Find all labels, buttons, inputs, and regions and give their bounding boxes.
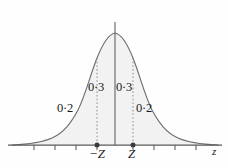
x-tick-label-neg-z: −Z [89, 146, 105, 162]
left-tail-area-label: 0·2 [57, 101, 73, 116]
right-tail-area-label: 0·2 [136, 101, 152, 116]
bell-curve-plot [0, 0, 228, 168]
x-axis-ticks [34, 145, 196, 150]
mid-right-area-label: 0·3 [116, 80, 132, 95]
x-tick-label-pos-z: Z [128, 146, 135, 162]
mid-left-area-label: 0·3 [88, 80, 104, 95]
normal-distribution-figure: 0·2 0·3 0·3 0·2 −Z Z z [0, 0, 228, 168]
x-axis-name-label: z [212, 145, 216, 157]
